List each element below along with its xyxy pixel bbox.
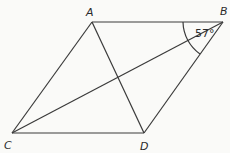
diagonal-bc xyxy=(12,22,223,133)
vertex-label-d: D xyxy=(140,140,148,153)
vertex-label-a: A xyxy=(85,6,94,19)
vertex-label-c: C xyxy=(4,139,12,152)
angle-label-b: 57° xyxy=(195,27,215,40)
parallelogram-diagram: A B C D 57° xyxy=(0,0,230,153)
vertex-label-b: B xyxy=(220,5,228,18)
side-ca xyxy=(12,22,92,133)
